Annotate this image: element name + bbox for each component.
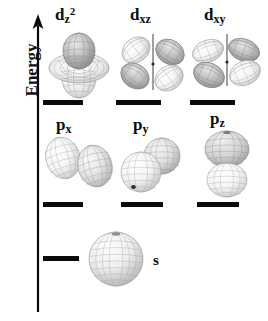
energy-level-p-y (121, 202, 163, 207)
energy-level-p-x (43, 202, 83, 207)
orbital-label-d-xy: dxy (204, 6, 225, 25)
orbital-cell-p-z: pz (190, 110, 268, 206)
orbital-art-s (85, 228, 147, 290)
orbital-label-d-z2: dz2 (55, 6, 75, 25)
orbital-art-d-z2 (45, 26, 117, 102)
orbital-cell-d-xy: dxy (190, 6, 268, 106)
orbital-label-s: s (153, 252, 159, 269)
orbital-art-p-y (115, 132, 191, 198)
orbital-cell-s: s (85, 228, 175, 298)
orbital-art-p-x (41, 133, 121, 195)
energy-level-d-xz (116, 100, 161, 105)
energy-level-d-z2 (43, 100, 83, 105)
orbital-cell-p-x: px (43, 116, 123, 206)
orbital-cell-d-xz: dxz (116, 6, 191, 106)
energy-level-p-z (197, 202, 239, 207)
label-sub-d-xy: xy (213, 12, 225, 26)
orbital-energy-diagram: Energy dz2 (0, 0, 268, 321)
label-sub-d-xz: xz (139, 12, 150, 26)
orbital-label-d-xz: dxz (130, 6, 151, 25)
orbital-label-p-z: pz (210, 110, 225, 129)
orbital-art-d-xy (187, 28, 265, 100)
label-sup-d-z2: 2 (70, 5, 76, 17)
energy-level-d-xy (190, 100, 235, 105)
orbital-cell-p-y: py (116, 116, 194, 206)
energy-level-s (43, 256, 79, 261)
orbital-art-p-z (194, 128, 262, 200)
orbital-cell-d-z2: dz2 (43, 6, 118, 106)
energy-axis-label: Energy (22, 30, 42, 110)
orbital-art-d-xz (116, 28, 190, 100)
